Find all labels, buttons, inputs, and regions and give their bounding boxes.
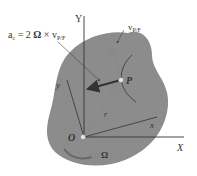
origin-point (80, 134, 85, 139)
coriolis-diagram: ac = 2 Ω × vP/F vP/F Y X x y P O r Ω (0, 0, 197, 176)
rotation-label: Ω (101, 150, 108, 160)
y-axis-label: y (55, 80, 60, 90)
equation-label: ac = 2 Ω × vP/F (8, 29, 66, 41)
velocity-label: vP/F (128, 22, 142, 33)
point-P (118, 77, 123, 82)
x-axis-label: x (149, 120, 154, 130)
origin-label: O (68, 132, 75, 143)
point-P-label: P (126, 75, 133, 86)
diagram-svg: ac = 2 Ω × vP/F vP/F Y X x y P O r Ω (0, 0, 197, 176)
X-axis-label: X (176, 142, 184, 153)
Y-axis-label: Y (75, 13, 82, 24)
